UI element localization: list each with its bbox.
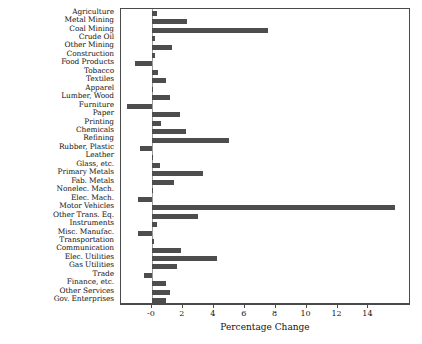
x-tick-label: 10	[293, 309, 319, 319]
bar-elec-utilities	[152, 256, 217, 261]
bar-food-products	[135, 61, 152, 66]
bar-other-services	[152, 290, 171, 295]
bar-textiles	[152, 78, 166, 83]
x-tick-mark	[151, 304, 152, 308]
bar-tobacco	[152, 70, 158, 75]
bar-printing	[152, 121, 161, 126]
bar-glass-etc	[152, 163, 160, 168]
x-tick-mark	[275, 304, 276, 308]
bar-chemicals	[152, 129, 186, 134]
bar-leather	[152, 155, 154, 160]
x-tick-mark	[337, 304, 338, 308]
x-tick-mark	[306, 304, 307, 308]
bar-elec-mach	[138, 197, 152, 202]
bar-crude-oil	[152, 36, 155, 41]
bar-gas-utilities	[152, 264, 177, 269]
x-axis-title: Percentage Change	[120, 322, 410, 332]
bar-rubber-plastic	[140, 146, 152, 151]
bar-transportation	[152, 239, 154, 244]
x-tick-mark	[182, 304, 183, 308]
x-tick-mark	[213, 304, 214, 308]
bar-motor-vehicles	[152, 205, 395, 210]
bar-construction	[152, 53, 155, 58]
x-tick-label: 12	[324, 309, 350, 319]
x-tick-label: 6	[231, 309, 257, 319]
bar-furniture	[127, 104, 152, 109]
bar-metal-mining	[152, 19, 188, 24]
bar-paper	[152, 112, 180, 117]
bar-agriculture	[152, 11, 157, 16]
bar-lumber-wood	[152, 95, 171, 100]
bar-coal-mining	[152, 28, 268, 33]
bar-instruments	[152, 222, 157, 227]
bar-primary-metals	[152, 171, 203, 176]
bar-communication	[152, 248, 181, 253]
bar-finance-etc	[152, 281, 166, 286]
x-tick-label: 14	[354, 309, 380, 319]
x-tick-mark	[244, 304, 245, 308]
plot-inner	[121, 9, 409, 303]
bar-refining	[152, 138, 229, 143]
bar-chart: AgricultureMetal MiningCoal MiningCrude …	[0, 0, 422, 344]
category-axis-labels: AgricultureMetal MiningCoal MiningCrude …	[0, 8, 116, 304]
category-label: Instruments	[0, 219, 114, 227]
category-label: Paper	[0, 109, 114, 117]
bar-gov-enterprises	[152, 298, 166, 303]
x-tick-label: -0	[138, 309, 164, 319]
category-label: Metal Mining	[0, 16, 114, 24]
bar-apparel	[152, 87, 153, 92]
category-label: Gov. Enterprises	[0, 295, 114, 303]
x-tick-mark	[367, 304, 368, 308]
x-tick-label: 8	[262, 309, 288, 319]
category-label: Motor Vehicles	[0, 202, 114, 210]
plot-area	[120, 8, 410, 304]
bar-misc-manufac	[138, 231, 152, 236]
bar-trade	[144, 273, 152, 278]
bar-other-mining	[152, 45, 172, 50]
x-tick-label: 4	[200, 309, 226, 319]
category-label: Lumber, Wood	[0, 92, 114, 100]
bar-nonelec-mach	[152, 188, 154, 193]
bar-fab-metals	[152, 180, 174, 185]
x-tick-label: 2	[169, 309, 195, 319]
bar-other-trans-eq	[152, 214, 198, 219]
